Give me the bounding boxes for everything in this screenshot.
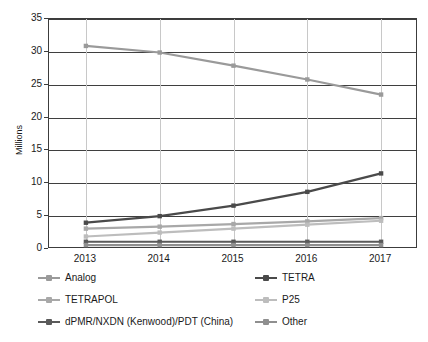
legend-label: P25 [282,294,300,305]
y-tick-5: 5 [16,210,42,220]
x-tick-2014: 2014 [129,254,189,264]
x-tick-2016: 2016 [276,254,336,264]
line-chart: Millions 05101520253035 2013201420152016… [0,0,428,342]
legend-swatch-icon [255,295,277,305]
y-tick-20: 20 [16,112,42,122]
data-point [379,171,383,175]
legend-label: TETRA [282,272,315,283]
data-point [231,222,235,226]
data-point [305,77,309,81]
y-tick-30: 30 [16,46,42,56]
series-other [84,243,384,247]
data-point [379,243,383,247]
series-p25 [84,219,384,239]
data-point [231,63,235,67]
legend-item[interactable]: P25 [255,294,300,305]
y-tickmark-0 [44,248,48,249]
data-point [305,190,309,194]
series-lines [49,19,418,249]
data-point [305,222,309,226]
y-tick-35: 35 [16,13,42,23]
legend-swatch-icon [255,317,277,327]
data-point [379,92,383,96]
x-tick-2015: 2015 [203,254,263,264]
data-point [158,224,162,228]
y-tick-0: 0 [16,243,42,253]
x-tick-2013: 2013 [55,254,115,264]
data-point [158,230,162,234]
legend-swatch-icon [38,273,60,283]
data-point [231,226,235,230]
legend-item[interactable]: Other [255,316,307,327]
legend-label: Analog [65,272,96,283]
legend-swatch-icon [38,317,60,327]
legend-item[interactable]: Analog [38,272,96,283]
legend-swatch-icon [38,295,60,305]
series-analog [84,44,384,97]
legend-item[interactable]: TETRAPOL [38,294,118,305]
data-point [158,214,162,218]
y-tick-25: 25 [16,79,42,89]
x-tick-2017: 2017 [350,254,410,264]
series-tetra [84,171,384,225]
data-point [379,219,383,223]
data-point [84,243,88,247]
data-point [231,243,235,247]
legend-item[interactable]: dPMR/NXDN (Kenwood)/PDT (China) [38,316,233,327]
legend-item[interactable]: TETRA [255,272,315,283]
legend-label: TETRAPOL [65,294,118,305]
data-point [158,243,162,247]
y-tick-15: 15 [16,144,42,154]
legend-swatch-icon [255,273,277,283]
data-point [84,221,88,225]
data-point [84,44,88,48]
legend-label: dPMR/NXDN (Kenwood)/PDT (China) [65,316,233,327]
series-line [86,46,381,95]
data-point [84,226,88,230]
data-point [84,234,88,238]
plot-area [48,18,417,248]
series-line [86,173,381,222]
data-point [158,50,162,54]
data-point [231,203,235,207]
legend-label: Other [282,316,307,327]
y-tick-10: 10 [16,177,42,187]
data-point [305,243,309,247]
